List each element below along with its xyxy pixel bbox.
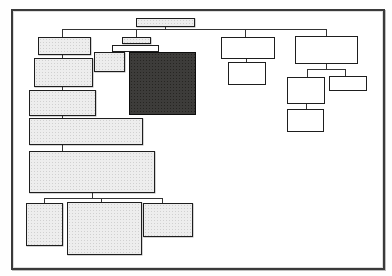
node-right-a-child (228, 62, 266, 85)
node-center-small (94, 52, 125, 72)
node-bottom-center (67, 202, 142, 255)
node-bottom-left (26, 203, 63, 246)
connector-drop-center-bar (136, 30, 137, 37)
node-center-dark (129, 52, 196, 115)
node-right-e (287, 109, 324, 132)
connector-bottom-rail (44, 198, 163, 199)
connector-main-rail (62, 29, 327, 30)
node-root-bar (136, 18, 195, 27)
connector-drop-left-1 (62, 30, 63, 37)
node-left-4 (29, 118, 143, 145)
node-right-a (221, 37, 275, 59)
sitemap-diagram (0, 0, 392, 276)
connector-right-b-rail (307, 69, 346, 70)
node-left-5 (29, 151, 155, 193)
node-right-d (329, 76, 367, 91)
node-center-bar-2 (112, 45, 159, 52)
connector-drop-right-a (245, 30, 246, 37)
node-center-bar-1 (122, 37, 151, 44)
node-left-2 (34, 58, 93, 87)
connector-drop-right-c (307, 70, 308, 77)
node-right-b (295, 36, 358, 64)
node-left-3 (29, 90, 96, 116)
scanned-figure-page: { "diagram": { "type": "sitemap-tree", "… (0, 0, 392, 276)
node-right-c (287, 77, 325, 104)
node-left-1 (38, 37, 91, 55)
node-bottom-right (143, 203, 193, 237)
